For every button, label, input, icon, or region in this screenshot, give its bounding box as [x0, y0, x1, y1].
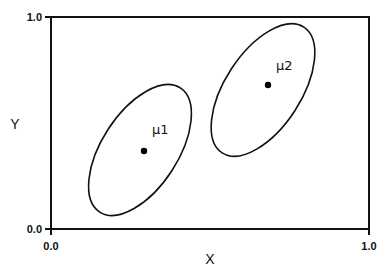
mu2-label: μ2 — [276, 58, 293, 73]
plot-frame — [51, 17, 369, 229]
mean-point-2 — [265, 82, 271, 88]
mu1-label: μ1 — [152, 122, 169, 137]
mean-point-1 — [141, 148, 147, 154]
ellipse-2 — [190, 6, 335, 173]
x-axis-label: X — [205, 251, 215, 267]
chart: 1.0 0.0 0.0 1.0 X Y μ1 μ2 — [0, 0, 387, 277]
ellipse-1 — [68, 67, 212, 233]
x-tick-label-max: 1.0 — [361, 240, 376, 252]
y-tick-label-max: 1.0 — [27, 11, 42, 23]
y-axis-label: Y — [10, 116, 20, 132]
x-tick-label-min: 0.0 — [43, 240, 58, 252]
y-tick-label-min: 0.0 — [27, 223, 42, 235]
